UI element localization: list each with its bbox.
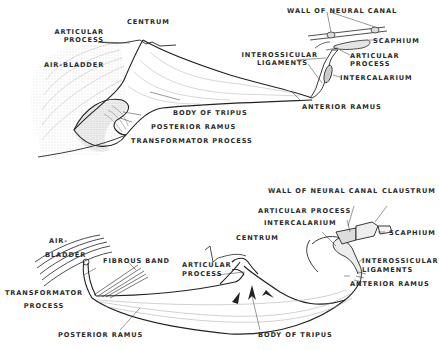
label-anterior-ramus-top: ANTERIOR RAMUS	[302, 103, 382, 111]
label-intercalarium-top: INTERCALARIUM	[340, 74, 412, 82]
label-transformator-process-top: TRANSFORMATOR PROCESS	[131, 137, 253, 145]
label-air-bladder-bottom-l2: BLADDER	[45, 251, 86, 259]
label-interossicular-bottom-l2: LIGAMENTS	[362, 266, 413, 274]
label-air-bladder-top: AIR-BLADDER	[44, 61, 104, 69]
label-wall-of-neural-canal-bottom: WALL OF NEURAL CANAL	[268, 187, 378, 195]
label-scaphium-top: SCAPHIUM	[373, 37, 420, 45]
label-articular-process-bottom-l2: PROCESS	[182, 270, 222, 278]
label-articular-process-top-l1: ARTICULAR	[52, 28, 104, 36]
label-interossicular-top-l2: LIGAMENTS	[232, 59, 308, 67]
label-articular-process-bottom-top: ARTICULAR PROCESS	[258, 207, 351, 215]
label-interossicular-bottom-l1: INTEROSSICULAR	[362, 257, 439, 265]
label-scaphium-bottom: SCAPHIUM	[389, 229, 436, 237]
label-anterior-ramus-bottom: ANTERIOR RAMUS	[350, 280, 430, 288]
label-wall-of-neural-canal-top: WALL OF NEURAL CANAL	[287, 7, 397, 15]
label-articular-process-top-right-l1: ARTICULAR	[350, 52, 400, 60]
air-bladder-bottom	[35, 235, 112, 286]
label-articular-process-top-l2: PROCESS	[52, 36, 104, 44]
label-centrum-top: CENTRUM	[127, 18, 170, 26]
label-transformator-bottom-l2: PROCESS	[4, 302, 84, 310]
label-articular-process-top-right-l2: PROCESS	[350, 60, 390, 68]
label-centrum-bottom: CENTRUM	[236, 234, 279, 242]
label-posterior-ramus-bottom: POSTERIOR RAMUS	[58, 331, 143, 339]
label-intercalarium-bottom: INTERCALARIUM	[264, 219, 336, 227]
label-fibrous-band: FIBROUS BAND	[103, 257, 170, 265]
label-body-of-tripus-top: BODY OF TRIPUS	[173, 109, 248, 117]
label-transformator-bottom-l1: TRANSFORMATOR	[4, 289, 84, 297]
label-claustrum-bottom: CLAUSTRUM	[382, 187, 436, 195]
label-posterior-ramus-top: POSTERIOR RAMUS	[151, 123, 236, 131]
fibrous-band	[94, 265, 148, 298]
label-interossicular-top-l1: INTEROSSICULAR	[232, 51, 318, 59]
label-air-bladder-bottom-l1: AIR-	[49, 237, 68, 245]
label-articular-process-bottom-l1: ARTICULAR	[182, 261, 232, 269]
label-body-of-tripus-bottom: BODY OF TRIPUS	[258, 331, 333, 339]
